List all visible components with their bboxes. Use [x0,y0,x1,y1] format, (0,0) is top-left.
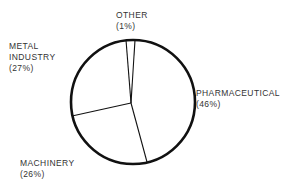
label-metal-name-2: INDUSTRY [9,52,56,63]
label-metal-name-1: METAL [9,41,56,52]
label-machinery: MACHINERY (26%) [20,158,74,180]
label-pharmaceutical: PHARMACEUTICAL (46%) [196,88,280,110]
label-pharma-pct: (46%) [196,99,280,110]
pie-outline [71,40,195,164]
label-metal-industry: METAL INDUSTRY (27%) [9,41,56,74]
label-pharma-name: PHARMACEUTICAL [196,88,280,99]
label-other-name: OTHER [116,10,148,21]
label-machinery-pct: (26%) [20,169,74,180]
label-other-pct: (1%) [116,21,148,32]
label-machinery-name: MACHINERY [20,158,74,169]
label-other: OTHER (1%) [116,10,148,32]
label-metal-pct: (27%) [9,63,56,74]
pie-chart: OTHER (1%) METAL INDUSTRY (27%) PHARMACE… [0,0,291,188]
